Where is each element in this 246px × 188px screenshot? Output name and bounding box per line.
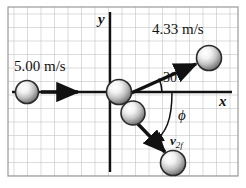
ball-2-final xyxy=(161,151,186,176)
ball-target-center xyxy=(107,80,132,105)
y-axis-label: y xyxy=(98,12,105,27)
v2f-subscript: 2f xyxy=(176,140,183,150)
angle-phi-label: ϕ xyxy=(178,108,186,123)
outgoing-speed-label: 4.33 m/s xyxy=(152,22,204,37)
diagram-canvas xyxy=(0,0,246,188)
v2f-vector-label: v2f xyxy=(170,134,183,150)
ball-1-final xyxy=(197,46,222,71)
ball-incoming xyxy=(16,81,39,104)
incoming-speed-label: 5.00 m/s xyxy=(14,59,66,74)
x-axis-label: x xyxy=(219,94,227,109)
physics-collision-diagram: 5.00 m/s 4.33 m/s y x 30° ϕ v2f xyxy=(0,0,246,188)
angle-30-label: 30° xyxy=(163,71,183,85)
ball-target-lower xyxy=(121,101,145,125)
